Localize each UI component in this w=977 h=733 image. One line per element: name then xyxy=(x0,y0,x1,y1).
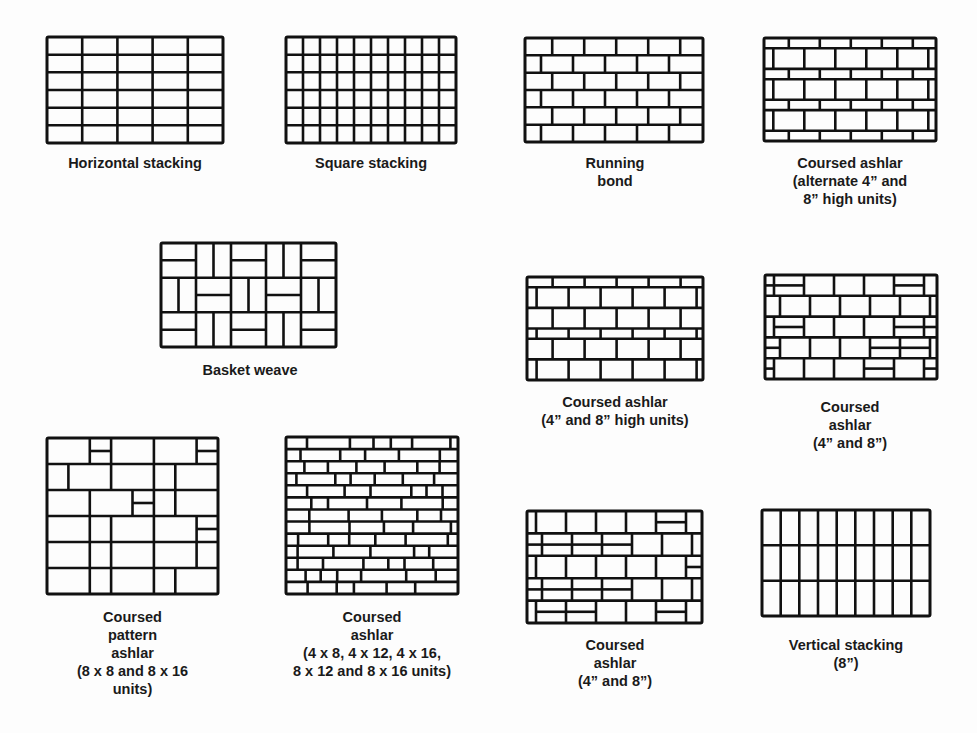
pattern-vertical-stacking xyxy=(762,510,930,616)
caption-coursed-ashlar-4-8-high: Coursed ashlar (4” and 8” high units) xyxy=(505,393,725,429)
horizontal-stacking-drawing xyxy=(47,37,223,143)
caption-coursed-pattern-ashlar: Coursed pattern ashlar (8 x 8 and 8 x 16… xyxy=(20,608,245,698)
pattern-square-stacking xyxy=(286,37,456,143)
coursed-ashlar-alternate-drawing xyxy=(764,38,936,141)
pattern-coursed-ashlar-alternate xyxy=(764,38,936,141)
pattern-running-bond xyxy=(525,38,703,142)
running-bond-drawing xyxy=(525,38,703,142)
pattern-coursed-ashlar-multi xyxy=(286,437,458,594)
caption-vertical-stacking: Vertical stacking (8”) xyxy=(746,636,946,672)
pattern-coursed-pattern-ashlar xyxy=(47,438,218,594)
caption-square-stacking: Square stacking xyxy=(256,154,486,172)
caption-coursed-ashlar-4-8-a: Coursed ashlar (4” and 8”) xyxy=(750,398,950,452)
pattern-basket-weave xyxy=(161,243,336,347)
basket-weave-drawing xyxy=(161,243,336,347)
coursed-pattern-ashlar-drawing xyxy=(47,438,218,594)
pattern-coursed-ashlar-4-8-high xyxy=(527,277,703,380)
coursed-ashlar-4-8-a-drawing xyxy=(765,275,937,379)
pattern-horizontal-stacking xyxy=(47,37,223,143)
caption-coursed-ashlar-alternate: Coursed ashlar (alternate 4” and 8” high… xyxy=(750,154,950,208)
square-stacking-drawing xyxy=(286,37,456,143)
caption-coursed-ashlar-multi: Coursed ashlar (4 x 8, 4 x 12, 4 x 16, 8… xyxy=(262,608,482,680)
pattern-coursed-ashlar-4-8-a xyxy=(765,275,937,379)
caption-basket-weave: Basket weave xyxy=(150,361,350,379)
coursed-ashlar-4-8-b-drawing xyxy=(527,511,702,623)
caption-coursed-ashlar-4-8-b: Coursed ashlar (4” and 8”) xyxy=(515,636,715,690)
vertical-stacking-drawing xyxy=(762,510,930,616)
coursed-ashlar-4-8-high-drawing xyxy=(527,277,703,380)
pattern-coursed-ashlar-4-8-b xyxy=(527,511,702,623)
coursed-ashlar-multi-drawing xyxy=(286,437,458,594)
caption-running-bond: Running bond xyxy=(515,154,715,190)
caption-horizontal-stacking: Horizontal stacking xyxy=(20,154,250,172)
